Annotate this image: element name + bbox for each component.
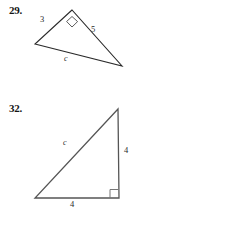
right-angle-marker-icon <box>110 190 119 199</box>
worksheet-page: 29. 3 5 c 32. c 4 4 <box>0 0 231 232</box>
problem-32-hypotenuse-label: c <box>63 139 67 147</box>
triangle-outline <box>35 10 122 66</box>
problem-29-leg-b-label: 5 <box>91 25 95 34</box>
problem-32: 32. c 4 4 <box>0 95 231 232</box>
triangle-outline <box>35 109 119 198</box>
problem-29-triangle-figure <box>0 0 231 95</box>
problem-32-horizontal-leg-label: 4 <box>70 200 74 209</box>
problem-29-hypotenuse-label: c <box>64 55 68 63</box>
problem-29: 29. 3 5 c <box>0 0 231 95</box>
problem-32-vertical-leg-label: 4 <box>124 146 128 155</box>
problem-32-triangle-figure <box>0 95 231 232</box>
problem-29-leg-a-label: 3 <box>40 15 44 24</box>
right-angle-marker-icon <box>67 17 78 28</box>
